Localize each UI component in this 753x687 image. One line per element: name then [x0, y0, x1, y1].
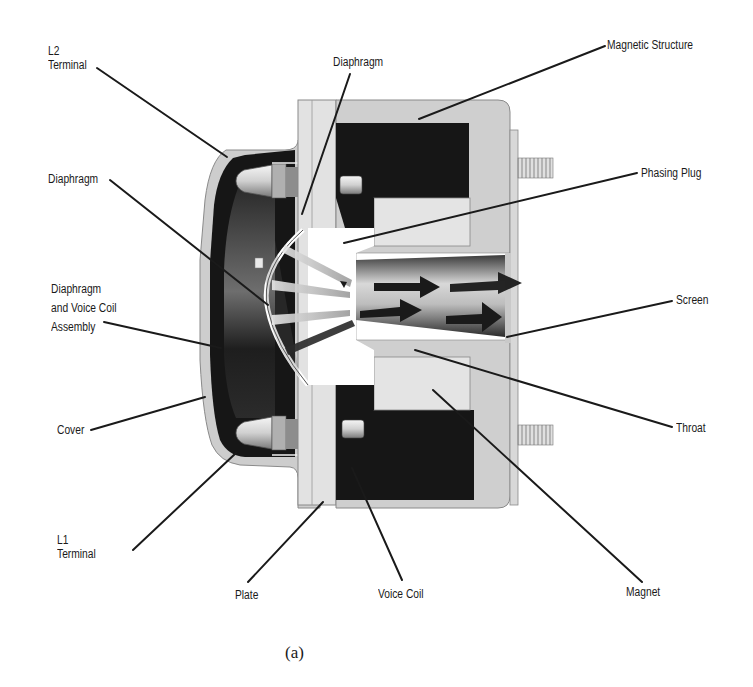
- label-l2-line1: L2: [48, 44, 87, 58]
- leader-plate: [248, 502, 323, 582]
- label-magnet: Magnet: [626, 585, 660, 599]
- label-assembly-line2: and Voice Coil: [51, 299, 117, 318]
- label-l2-terminal: L2 Terminal: [48, 44, 87, 72]
- leader-cover: [91, 397, 205, 430]
- throat: [356, 253, 511, 343]
- label-cover: Cover: [57, 423, 84, 437]
- label-magnetic-structure: Magnetic Structure: [607, 38, 693, 52]
- compression-driver-diagram: [0, 0, 753, 687]
- figure-caption: (a): [285, 643, 304, 663]
- label-assembly-line3: Assembly: [51, 318, 117, 337]
- mounting-bolt-top: [518, 158, 553, 178]
- label-phasing-plug: Phasing Plug: [641, 166, 701, 180]
- label-l1-line2: Terminal: [57, 547, 96, 561]
- leader-magnetic-structure: [419, 46, 605, 119]
- label-diaphragm-top: Diaphragm: [333, 55, 383, 69]
- label-l1-terminal: L1 Terminal: [57, 533, 96, 561]
- leader-screen: [507, 301, 672, 337]
- label-assembly-line1: Diaphragm: [51, 280, 117, 299]
- label-diaphragm-left: Diaphragm: [48, 172, 98, 186]
- label-plate: Plate: [235, 588, 258, 602]
- leader-l2-terminal: [97, 68, 227, 157]
- mounting-bolt-bottom: [518, 425, 553, 445]
- label-throat: Throat: [676, 421, 706, 435]
- label-voice-coil: Voice Coil: [378, 587, 424, 601]
- label-diaphragm-voice-coil-assembly: Diaphragm and Voice Coil Assembly: [51, 280, 117, 337]
- label-screen: Screen: [676, 293, 708, 307]
- label-l2-line2: Terminal: [48, 58, 87, 72]
- label-l1-line1: L1: [57, 533, 96, 547]
- leader-l1-terminal: [133, 453, 236, 550]
